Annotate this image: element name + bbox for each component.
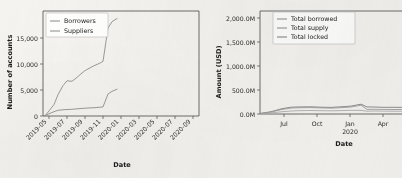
accounts-chart-svg: Number of accounts 15,000 10,000 5,000 0 bbox=[0, 0, 201, 178]
legend: Borrowers Suppliers bbox=[46, 13, 108, 37]
y-axis-ticks bbox=[257, 18, 260, 114]
x-tick-label: Jul bbox=[279, 120, 288, 128]
legend-label-suppliers: Suppliers bbox=[64, 27, 93, 35]
y-tick-label: 15,000 bbox=[16, 35, 38, 42]
y-tick-label: 1,500.0M bbox=[226, 39, 255, 46]
x-tick-label-year: 2020 bbox=[342, 128, 358, 135]
figure-container: Number of accounts 15,000 10,000 5,000 0 bbox=[0, 0, 402, 178]
y-tick-label: 0.0M bbox=[240, 111, 255, 118]
amounts-chart-svg: Amount (USD) 2,000.0M 1,500.0M 1,000.0M … bbox=[201, 0, 402, 178]
legend: Total borrowed Total supply Total locked bbox=[273, 12, 355, 44]
x-axis-ticks bbox=[284, 114, 383, 117]
series-line-suppliers bbox=[45, 89, 117, 116]
y-axis-label: Amount (USD) bbox=[215, 46, 223, 99]
legend-label-total-locked: Total locked bbox=[290, 33, 328, 40]
y-tick-label: 1,000.0M bbox=[226, 63, 255, 70]
x-axis-label: Date bbox=[335, 140, 353, 148]
amounts-chart-panel: Amount (USD) 2,000.0M 1,500.0M 1,000.0M … bbox=[201, 0, 402, 178]
legend-label-borrowers: Borrowers bbox=[64, 17, 96, 24]
series-line-total-borrowed bbox=[261, 110, 402, 113]
y-tick-label: 2,000.0M bbox=[226, 15, 255, 22]
y-axis-label: Number of accounts bbox=[6, 35, 14, 110]
x-tick-label: Apr bbox=[378, 120, 389, 128]
series-line-total-locked bbox=[261, 105, 402, 113]
y-axis-ticks bbox=[40, 38, 43, 116]
x-tick-label: Oct bbox=[312, 120, 323, 127]
y-tick-label: 5,000 bbox=[20, 87, 38, 94]
y-tick-label: 0 bbox=[34, 113, 38, 120]
y-tick-label: 10,000 bbox=[16, 61, 38, 68]
x-tick-label: Jan bbox=[344, 120, 355, 128]
y-tick-label: 500.0M bbox=[232, 87, 255, 94]
x-axis-label: Date bbox=[113, 161, 131, 169]
x-axis-ticks bbox=[49, 116, 193, 119]
legend-label-total-supply: Total supply bbox=[290, 24, 329, 32]
legend-label-total-borrowed: Total borrowed bbox=[290, 15, 337, 22]
accounts-chart-panel: Number of accounts 15,000 10,000 5,000 0 bbox=[0, 0, 201, 178]
